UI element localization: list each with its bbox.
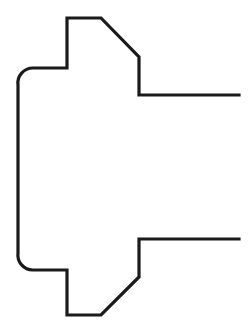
bracket-outline-path <box>18 18 239 315</box>
line-drawing-svg: Technical line drawing of a bracket prof… <box>0 0 250 335</box>
drawing-canvas: Technical line drawing of a bracket prof… <box>0 0 250 335</box>
